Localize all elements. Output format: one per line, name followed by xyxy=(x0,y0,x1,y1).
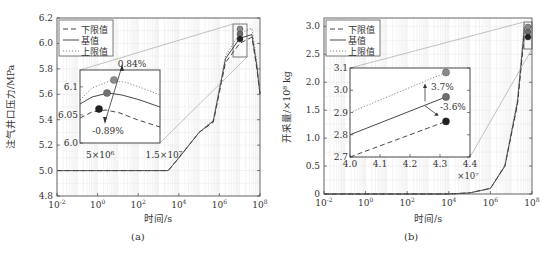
x-tick-label: 104 xyxy=(441,196,456,208)
x-tick-label: 108 xyxy=(524,196,539,208)
y-tick-label: 5.6 xyxy=(39,89,54,99)
inset-y-tick-label: 2.9 xyxy=(334,108,349,118)
legend-label: 基值 xyxy=(81,35,99,46)
chart-a: 10-21001021041061084.85.05.25.45.65.86.0… xyxy=(5,13,268,224)
peak-marker xyxy=(237,36,243,42)
annotation-lower: -3.6% xyxy=(440,102,466,112)
figure-canvas: 10-21001021041061084.85.05.25.45.65.86.0… xyxy=(0,0,557,253)
inset-marker xyxy=(442,93,449,100)
inset-y-tick-label: 3.1 xyxy=(334,63,348,73)
x-tick-label: 104 xyxy=(171,198,186,210)
peak-marker xyxy=(525,34,531,40)
y-tick-label: 1.0 xyxy=(306,133,321,143)
x-axis-label: 时间/s xyxy=(144,213,172,224)
figure: 10-21001021041061084.85.05.25.45.65.86.0… xyxy=(0,0,557,253)
y-tick-label: 6.0 xyxy=(39,38,54,48)
inset-a: 6.06.056.10.84%-0.89%5×10⁶1.5×10⁷ xyxy=(58,59,183,160)
inset-x-tick-label: 4.0 xyxy=(343,159,358,169)
y-tick-label: 4.8 xyxy=(39,191,54,201)
x-tick-label: 100 xyxy=(358,196,373,208)
legend-label: 上限值 xyxy=(81,46,108,57)
annotation-upper: 0.84% xyxy=(118,59,147,69)
x-tick-label: 108 xyxy=(252,198,267,210)
y-axis-label: 开采量/×10⁸ kg xyxy=(281,71,292,143)
caption-b: (b) xyxy=(404,231,418,242)
inset-y-tick-label: 6.1 xyxy=(64,82,78,92)
inset-marker xyxy=(442,69,449,76)
y-tick-label: 3.0 xyxy=(306,21,321,31)
legend-label: 基值 xyxy=(348,35,366,46)
legend-label: 上限值 xyxy=(348,46,375,57)
annotation-lower: -0.89% xyxy=(92,126,124,136)
inset-marker-lower xyxy=(95,105,102,112)
caption-a: (a) xyxy=(131,231,145,242)
x-tick-label: 100 xyxy=(90,198,105,210)
y-tick-label: 2.0 xyxy=(306,77,321,87)
inset-marker xyxy=(442,118,449,125)
inset-x-tick-label: 4.1 xyxy=(373,159,387,169)
chart-b: 10-210010210410610800.51.01.52.02.53.0时间… xyxy=(281,18,540,224)
y-tick-label: 5.2 xyxy=(39,140,53,150)
legend-label: 下限值 xyxy=(348,24,375,35)
zoom-connector xyxy=(160,57,247,143)
y-tick-label: 5.0 xyxy=(39,166,54,176)
annotation-upper: 3.7% xyxy=(431,82,454,92)
y-tick-label: 0 xyxy=(314,189,320,199)
inset-y-tick-label: 3.0 xyxy=(334,85,349,95)
x-tick-label: 106 xyxy=(212,198,227,210)
inset-x-multiplier: ×10⁷ xyxy=(457,171,479,181)
legend: 下限值基值上限值 xyxy=(326,20,380,57)
y-tick-label: 5.8 xyxy=(39,64,54,74)
inset-x-tick-label: 4.4 xyxy=(463,159,478,169)
inset-y-tick-label: 6.0 xyxy=(64,138,79,148)
y-tick-label: 5.4 xyxy=(39,115,54,125)
inset-marker-base xyxy=(103,89,110,96)
inset-y-tick-label: 2.8 xyxy=(334,130,349,140)
inset-x-tick-label: 4.3 xyxy=(433,159,448,169)
legend-label: 下限值 xyxy=(81,24,108,35)
y-axis-label: 注气井口压力/MPa xyxy=(5,64,16,149)
x-tick-label: 106 xyxy=(483,196,498,208)
x-tick-label: 102 xyxy=(131,198,146,210)
x-axis-label: 时间/s xyxy=(414,213,442,224)
y-tick-label: 6.2 xyxy=(39,13,53,23)
inset-x-label: 5×10⁶ xyxy=(86,150,115,160)
legend: 下限值基值上限值 xyxy=(59,20,113,57)
inset-x-label: 1.5×10⁷ xyxy=(146,150,183,160)
y-tick-label: 2.5 xyxy=(306,49,321,59)
inset-marker-upper xyxy=(110,76,117,83)
y-tick-label: 0.5 xyxy=(306,161,321,171)
inset-x-tick-label: 4.2 xyxy=(403,159,417,169)
x-tick-label: 102 xyxy=(400,196,415,208)
inset-b: 2.72.82.93.03.14.04.14.24.34.4×10⁷3.7%-3… xyxy=(334,63,480,181)
y-tick-label: 1.5 xyxy=(306,105,321,115)
inset-y-tick-label: 6.05 xyxy=(58,110,78,120)
